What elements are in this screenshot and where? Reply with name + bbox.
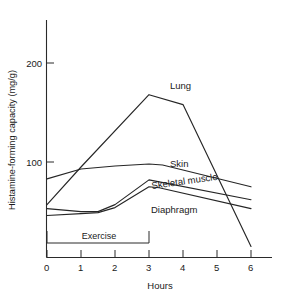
y-axis-title: Histamine-forming capacity (mg/g) [7, 70, 17, 210]
series-label-lung: Lung [170, 80, 191, 91]
y-tick-label-200: 200 [26, 58, 42, 69]
x-tick-label-1: 1 [78, 262, 83, 273]
series-label-skeletal-muscle: Skeletal muscle [151, 171, 218, 191]
x-tick-label-0: 0 [44, 262, 49, 273]
line-chart: 200 100 0 1 2 3 4 5 6 Hours Histamine-fo… [0, 0, 296, 298]
series-line-skeletal-muscle [47, 180, 251, 212]
x-tick-label-6: 6 [248, 262, 253, 273]
x-tick-label-5: 5 [214, 262, 219, 273]
x-tick-label-2: 2 [112, 262, 117, 273]
x-axis-title: Hours [147, 280, 173, 291]
chart-figure: 200 100 0 1 2 3 4 5 6 Hours Histamine-fo… [0, 0, 296, 298]
series-label-diaphragm: Diaphragm [151, 204, 198, 215]
x-tick-label-3: 3 [146, 262, 151, 273]
x-tick-label-4: 4 [180, 262, 185, 273]
exercise-label: Exercise [82, 231, 117, 241]
series-label-skin: Skin [170, 158, 188, 169]
y-tick-label-100: 100 [26, 157, 42, 168]
